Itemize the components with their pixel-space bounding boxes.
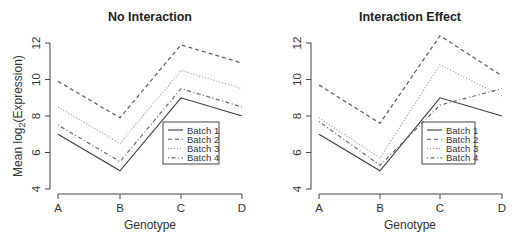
- x-tick-label: C: [436, 202, 444, 214]
- x-tick-label: C: [177, 202, 185, 214]
- x-tick-label: B: [376, 202, 384, 214]
- panel-1-y-axis-label: Mean log2(Expression): [11, 55, 27, 177]
- y-tick-label: 8: [30, 113, 42, 119]
- x-tick-label: A: [54, 202, 62, 214]
- y-tick-label: 8: [291, 113, 303, 119]
- y-tick-label: 4: [30, 185, 42, 192]
- chart-canvas: No Interaction Genotype Mean log2(Expres…: [0, 0, 517, 245]
- x-tick-label: D: [498, 202, 506, 214]
- x-tick-label: A: [315, 202, 323, 214]
- panel-1: 4681012ABCDBatch 1Batch 2Batch 3Batch 4: [30, 37, 246, 214]
- y-axis: 4681012: [30, 37, 50, 193]
- y-tick-label: 6: [291, 149, 303, 155]
- figure: No Interaction Genotype Mean log2(Expres…: [0, 0, 517, 245]
- panel-1-x-axis-label: Genotype: [124, 218, 176, 232]
- panel-2-x-axis-label: Genotype: [384, 218, 436, 232]
- x-tick-label: D: [238, 202, 246, 214]
- y-tick-label: 12: [291, 37, 303, 50]
- panel-1-title: No Interaction: [108, 10, 192, 24]
- y-tick-label: 12: [30, 37, 42, 50]
- x-axis: ABCD: [54, 194, 246, 214]
- plot-layers: 4681012ABCDBatch 1Batch 2Batch 3Batch 44…: [30, 36, 506, 214]
- y-tick-label: 6: [30, 149, 42, 155]
- y-tick-label: 10: [30, 73, 42, 86]
- y-axis: 4681012: [291, 37, 311, 193]
- x-tick-label: B: [116, 202, 124, 214]
- panel-2-title: Interaction Effect: [359, 10, 462, 24]
- panel-2: 4681012ABCDBatch 1Batch 2Batch 3Batch 4: [291, 36, 506, 214]
- series-line-batch-2: [58, 45, 242, 118]
- legend: Batch 1Batch 2Batch 3Batch 4: [422, 122, 478, 164]
- x-axis: ABCD: [315, 194, 506, 214]
- y-tick-label: 10: [291, 73, 303, 86]
- y-tick-label: 4: [291, 185, 303, 192]
- legend-label: Batch 4: [446, 152, 478, 163]
- legend: Batch 1Batch 2Batch 3Batch 4: [163, 122, 219, 164]
- legend-label: Batch 4: [187, 152, 219, 163]
